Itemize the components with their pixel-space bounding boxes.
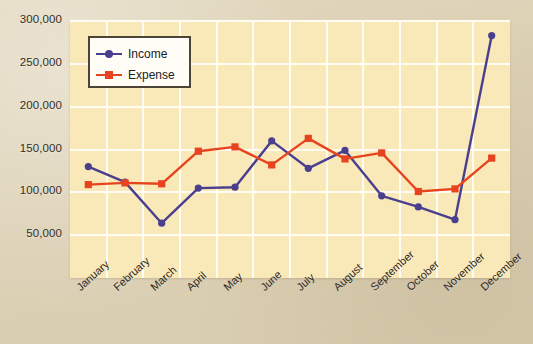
legend-label-expense: Expense [128, 69, 175, 81]
circle-marker-icon [105, 50, 113, 58]
square-marker-icon [105, 71, 113, 79]
legend-item-expense: Expense [96, 64, 183, 85]
line-chart: 300,000250,000200,000150,000100,00050,00… [0, 0, 533, 344]
legend-item-income: Income [96, 43, 183, 64]
chart-legend: Income Expense [88, 36, 191, 88]
data-series-layer [0, 0, 533, 344]
legend-swatch-expense [96, 69, 122, 81]
legend-swatch-income [96, 48, 122, 60]
series-line-expense [88, 138, 491, 191]
legend-label-income: Income [128, 48, 167, 60]
chart-screenshot: 300,000250,000200,000150,000100,00050,00… [0, 0, 533, 344]
